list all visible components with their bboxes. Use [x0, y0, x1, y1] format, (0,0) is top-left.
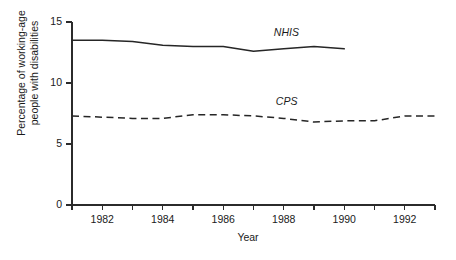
y-tick-label: 15 — [38, 16, 62, 27]
y-axis-ticks — [66, 22, 72, 205]
x-axis-ticks — [72, 205, 435, 210]
series-label-cps: CPS — [276, 96, 298, 107]
x-tick-label: 1988 — [264, 214, 304, 225]
series-label-nhis: NHIS — [274, 27, 299, 38]
series-group — [72, 40, 435, 122]
chart-figure: Percentage of working-age people with di… — [0, 0, 456, 260]
y-tick-label: 10 — [38, 77, 62, 88]
series-line-cps — [72, 115, 435, 122]
series-line-nhis — [72, 40, 344, 51]
x-tick-label: 1990 — [324, 214, 364, 225]
x-tick-label: 1984 — [143, 214, 183, 225]
x-axis-title: Year — [226, 232, 270, 243]
x-tick-label: 1982 — [82, 214, 122, 225]
y-axis-title-line-1: Percentage of working-age — [15, 0, 28, 171]
y-tick-label: 0 — [38, 199, 62, 210]
y-tick-label: 5 — [38, 138, 62, 149]
x-tick-label: 1992 — [385, 214, 425, 225]
x-tick-label: 1986 — [203, 214, 243, 225]
